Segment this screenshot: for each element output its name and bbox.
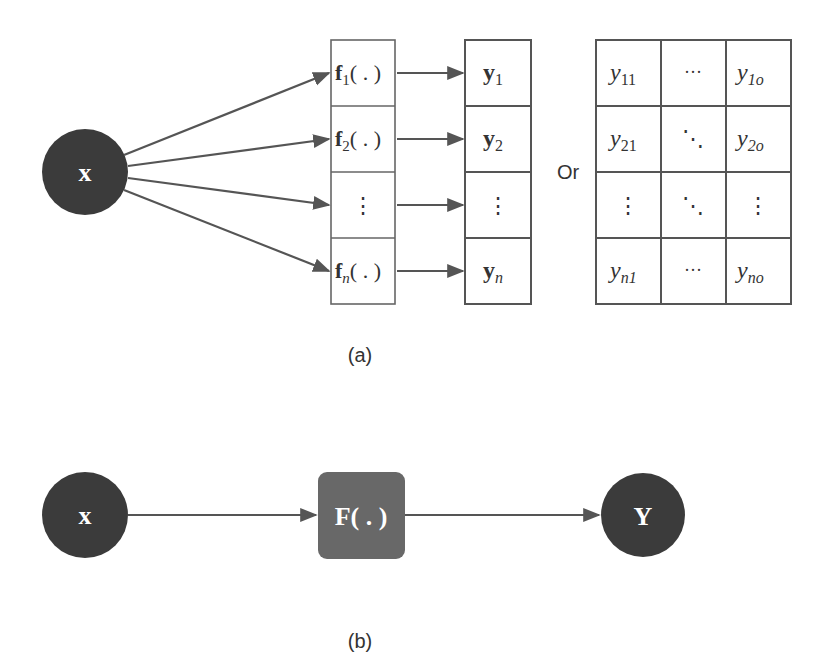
matrix-cell-3-1: ⋮	[617, 193, 639, 218]
output-column: y1 y2 ⋮ yn	[465, 40, 531, 304]
function-to-output-arrows	[397, 73, 463, 271]
output-yn: yn	[483, 257, 503, 286]
function-fn: fn( . )	[335, 258, 381, 286]
matrix-cell-3-3: ⋮	[747, 193, 769, 218]
or-label: Or	[557, 161, 580, 183]
function-ellipsis: ⋮	[352, 193, 374, 218]
matrix-cell-1-2: ···	[684, 62, 702, 82]
diagram-a: x f1( . ) f2( . ) ⋮ fn( . )	[42, 40, 791, 366]
output-matrix: y11 ··· y1o y21 ⋱ y2o ⋮ ⋱ ⋮ yn1 ··· yno	[596, 40, 791, 304]
output-ellipsis: ⋮	[487, 193, 509, 218]
output-y2: y2	[483, 125, 503, 154]
matrix-cell-2-3: y2o	[735, 125, 764, 154]
matrix-cell-1-1: y11	[608, 59, 636, 88]
diagram-b: x F( . ) Y (b)	[42, 472, 685, 652]
input-node-label: x	[79, 158, 92, 187]
matrix-cell-2-2: ⋱	[682, 126, 704, 151]
function-node-label: F( . )	[335, 502, 388, 531]
matrix-cell-4-1: yn1	[608, 257, 637, 286]
function-f1: f1( . )	[335, 60, 381, 88]
caption-b: (b)	[348, 630, 372, 652]
input-node-label-b: x	[79, 501, 92, 530]
matrix-cell-3-2: ⋱	[682, 193, 704, 218]
diagram-canvas: x f1( . ) f2( . ) ⋮ fn( . )	[0, 0, 829, 670]
caption-a: (a)	[348, 344, 372, 366]
matrix-cell-4-2: ···	[684, 260, 702, 280]
output-y1: y1	[483, 59, 503, 88]
matrix-cell-4-3: yno	[735, 257, 764, 286]
matrix-cell-2-1: y21	[608, 125, 637, 154]
function-column: f1( . ) f2( . ) ⋮ fn( . )	[331, 40, 395, 304]
function-f2: f2( . )	[335, 126, 381, 154]
fan-out-arrows	[124, 73, 329, 271]
matrix-cell-1-3: y1o	[735, 59, 764, 88]
output-node-label: Y	[634, 502, 653, 531]
